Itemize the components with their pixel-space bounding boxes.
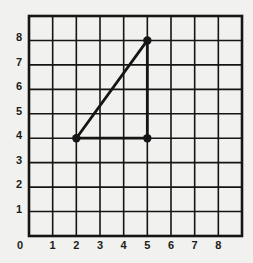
y-tick-label: 8 bbox=[16, 31, 22, 43]
y-tick-label: 2 bbox=[16, 178, 22, 190]
y-tick-labels: 12345678 bbox=[16, 31, 23, 214]
x-tick-label: 8 bbox=[215, 239, 221, 251]
grid-border bbox=[29, 16, 242, 236]
y-tick-label: 3 bbox=[16, 154, 22, 166]
x-tick-label: 6 bbox=[168, 239, 174, 251]
x-tick-label: 3 bbox=[97, 239, 103, 251]
x-tick-label: 2 bbox=[73, 239, 79, 251]
y-tick-label: 4 bbox=[16, 129, 23, 141]
vertex-point bbox=[72, 134, 80, 142]
y-tick-label: 5 bbox=[16, 105, 22, 117]
x-tick-label: 5 bbox=[144, 239, 150, 251]
origin-label: 0 bbox=[17, 239, 23, 251]
vertex-point bbox=[143, 134, 151, 142]
x-tick-label: 7 bbox=[192, 239, 198, 251]
grid-lines bbox=[29, 16, 242, 236]
vertex-point bbox=[143, 36, 151, 44]
y-tick-label: 7 bbox=[16, 56, 22, 68]
coordinate-grid-figure: 0 12345678 12345678 bbox=[0, 0, 253, 263]
x-tick-label: 4 bbox=[121, 239, 128, 251]
x-tick-label: 1 bbox=[50, 239, 56, 251]
x-tick-labels: 12345678 bbox=[50, 239, 222, 251]
y-tick-label: 1 bbox=[16, 203, 22, 215]
y-tick-label: 6 bbox=[16, 80, 22, 92]
